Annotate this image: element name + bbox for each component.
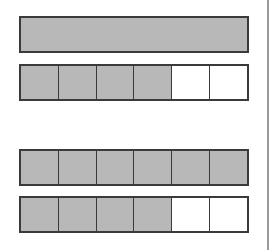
shaded-segment xyxy=(210,151,247,184)
shaded-segment xyxy=(21,198,59,231)
shaded-segment xyxy=(134,151,172,184)
shaded-segment xyxy=(59,151,97,184)
fraction-bar-whole-1 xyxy=(19,16,249,53)
right-edge-line xyxy=(267,0,269,250)
unshaded-segment xyxy=(210,198,247,231)
unshaded-segment xyxy=(172,66,210,99)
shaded-segment xyxy=(134,66,172,99)
shaded-segment xyxy=(21,66,59,99)
shaded-segment xyxy=(97,198,135,231)
unshaded-segment xyxy=(210,66,247,99)
fraction-bar-sixths-4-shaded-b xyxy=(19,196,249,233)
shaded-segment xyxy=(97,151,135,184)
shaded-segment xyxy=(59,198,97,231)
shaded-segment xyxy=(172,151,210,184)
shaded-segment xyxy=(134,198,172,231)
shaded-segment xyxy=(59,66,97,99)
shaded-segment xyxy=(97,66,135,99)
shaded-segment xyxy=(21,18,247,51)
shaded-segment xyxy=(21,151,59,184)
unshaded-segment xyxy=(172,198,210,231)
fraction-bar-sixths-6-shaded xyxy=(19,149,249,186)
fraction-bar-sixths-4-shaded-a xyxy=(19,64,249,101)
